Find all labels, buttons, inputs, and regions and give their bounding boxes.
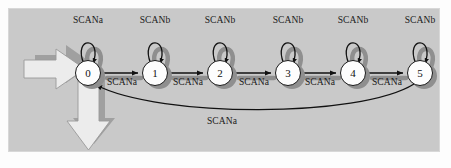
return-transition-label: SCANa	[207, 116, 237, 126]
self-loop-label-4: SCANb	[338, 15, 369, 25]
state-node-5[interactable]: 5	[407, 60, 433, 86]
self-loop-edges	[81, 43, 427, 64]
state-node-label: 3	[285, 68, 291, 79]
state-node-label: 4	[350, 68, 356, 79]
state-node-label: 5	[417, 68, 423, 79]
state-diagram-figure: 0 1 2 3 4 5 SCANa SCANb SCANb SCANb SCAN…	[0, 0, 451, 168]
state-node-label: 1	[152, 68, 158, 79]
transition-label-4-5: SCANa	[372, 77, 402, 87]
state-node-1[interactable]: 1	[142, 60, 168, 86]
transition-label-2-3: SCANa	[239, 77, 269, 87]
self-loop-shadows	[87, 49, 433, 67]
return-transition-edge	[96, 84, 414, 110]
self-loop-label-5: SCANb	[405, 15, 436, 25]
state-node-2[interactable]: 2	[207, 60, 233, 86]
state-node-3[interactable]: 3	[275, 60, 301, 86]
transition-label-1-2: SCANa	[173, 77, 203, 87]
state-node-4[interactable]: 4	[340, 60, 366, 86]
self-loop-label-2: SCANb	[205, 15, 236, 25]
transition-label-3-4: SCANa	[305, 77, 335, 87]
transition-label-0-1: SCANa	[107, 77, 137, 87]
state-node-label: 2	[217, 68, 223, 79]
state-node-0[interactable]: 0	[75, 60, 101, 86]
self-loop-label-0: SCANa	[73, 15, 103, 25]
self-loop-label-1: SCANb	[140, 15, 171, 25]
self-loop-label-3: SCANb	[273, 15, 304, 25]
state-node-label: 0	[85, 68, 91, 79]
